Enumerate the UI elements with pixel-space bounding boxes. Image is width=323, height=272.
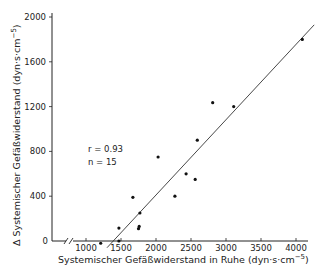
x-axis-title: Systemischer Gefäßwiderstand in Ruhe (dy… (58, 253, 309, 265)
y-axis-title: Δ Systemischer Gefäßwiderstand (dyn·s·cm… (10, 24, 22, 246)
data-point (157, 155, 160, 158)
data-point (301, 38, 304, 41)
y-tick-label: 0 (43, 236, 48, 246)
x-tick-label: 3500 (250, 243, 272, 253)
data-point (232, 105, 235, 108)
data-point (173, 195, 176, 198)
data-point (211, 101, 214, 104)
y-tick-label: 800 (30, 146, 46, 156)
data-point (117, 239, 120, 242)
data-point (117, 227, 120, 230)
x-tick-label: 1000 (75, 243, 97, 253)
x-tick-label: 3000 (215, 243, 237, 253)
annotation-n: n = 15 (88, 157, 117, 167)
x-ticks: 1000150020002500300035004000 (75, 238, 307, 253)
data-point (138, 225, 141, 228)
data-point (131, 196, 134, 199)
y-tick-label: 400 (30, 191, 46, 201)
y-tick-label: 2000 (24, 12, 46, 22)
x-tick-label: 4000 (285, 243, 307, 253)
data-point (185, 172, 188, 175)
x-tick-label: 2000 (145, 243, 167, 253)
data-point (99, 242, 102, 245)
x-tick-label: 1500 (110, 243, 132, 253)
regression-line (107, 25, 314, 248)
x-tick-label: 2500 (180, 243, 202, 253)
data-point (138, 211, 141, 214)
data-point (194, 178, 197, 181)
y-tick-label: 1600 (24, 57, 46, 67)
scatter-chart: 0400800120016002000 10001500200025003000… (0, 0, 323, 272)
annotation-r: r = 0.93 (88, 144, 123, 154)
y-tick-label: 1200 (24, 102, 46, 112)
y-ticks: 0400800120016002000 (24, 12, 52, 246)
data-point (196, 139, 199, 142)
